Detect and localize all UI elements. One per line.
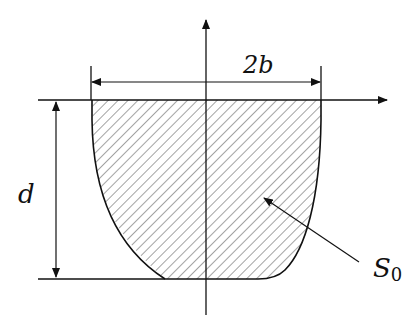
area-label: S0: [373, 253, 402, 285]
depth-label: d: [18, 179, 35, 209]
width-label: 2b: [242, 51, 274, 79]
diagram-canvas: 2b d S0: [0, 0, 417, 327]
